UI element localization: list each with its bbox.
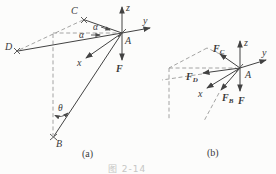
force-F-label-b: F [237,95,245,106]
y-axis-a [122,28,150,33]
x-axis-label-a: x [76,57,82,68]
y-axis-label-a: y [142,15,148,26]
panel-a: z y x A C D B F α α θ (a) [4,2,150,160]
point-label-A-a: A [124,35,132,46]
point-label-C: C [71,5,78,16]
z-axis-label-a: z [125,2,130,13]
x-axis-label-b: x [197,88,203,99]
panel-b-tag: (b) [207,147,219,159]
x-axis-a [86,33,122,58]
alpha-lower-label: α [79,30,85,40]
theta-arc [55,113,68,117]
force-FB-label: FB [221,92,234,105]
panel-a-tag: (a) [82,148,93,160]
figure-caption: 图 2-14 [108,164,146,174]
force-FD-label: FD [185,71,198,84]
force-FC-sub: C [220,48,225,56]
force-FD-sub: D [192,76,198,84]
point-label-A-b: A [244,69,252,80]
force-FC-label: FC [212,43,225,56]
force-FD-vector [203,68,240,73]
alpha-upper-label: α [93,22,99,32]
panel-b: z y x A FC FD FB F (b) [162,37,267,159]
z-axis-label-b: z [243,37,248,48]
dashed-extension-FB [204,93,219,121]
force-FB-sub: B [228,97,234,105]
force-F-label-a: F [115,63,123,74]
line-A-to-B [54,33,122,136]
dashed-line-diagonal-b [169,48,207,68]
theta-label: θ [58,103,63,113]
line-A-to-D [18,33,122,51]
y-axis-b [240,60,266,68]
point-label-D: D [4,41,13,52]
statics-figure: z y x A C D B F α α θ (a) z y x [0,0,276,174]
point-label-B: B [56,138,62,149]
line-A-to-C [85,20,122,33]
y-axis-label-b: y [261,47,267,58]
force-FC-vector [220,54,240,68]
figure-canvas: z y x A C D B F α α θ (a) z y x [0,0,276,174]
x-axis-b [207,68,240,88]
